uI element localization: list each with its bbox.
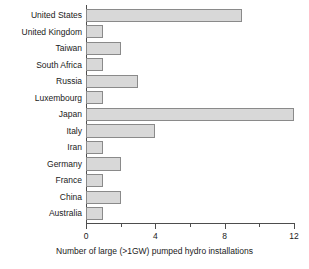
bar: [86, 25, 103, 38]
bar-chart: United StatesUnited KingdomTaiwanSouth A…: [0, 0, 309, 269]
x-tick-major: [86, 224, 87, 229]
bar: [86, 207, 103, 220]
x-axis-title: Number of large (>1GW) pumped hydro inst…: [0, 246, 309, 256]
category-label: Luxembourg: [0, 90, 82, 107]
x-tick-label: 12: [289, 231, 298, 241]
category-label: United Kingdom: [0, 24, 82, 41]
x-tick-minor: [259, 224, 260, 227]
bar-row: [86, 24, 294, 41]
x-tick-minor: [121, 224, 122, 227]
bar-row: [86, 139, 294, 156]
plot-area: [86, 7, 294, 222]
x-tick-major: [225, 224, 226, 229]
bar: [86, 108, 294, 121]
category-label: China: [0, 189, 82, 206]
x-tick-major: [294, 224, 295, 229]
bar: [86, 42, 121, 55]
bar-row: [86, 172, 294, 189]
bar-row: [86, 123, 294, 140]
bar: [86, 174, 103, 187]
bar-row: [86, 106, 294, 123]
category-label: United States: [0, 7, 82, 24]
category-label: South Africa: [0, 57, 82, 74]
bar: [86, 75, 138, 88]
category-label: Australia: [0, 205, 82, 222]
x-tick-label: 4: [153, 231, 158, 241]
x-tick-label: 0: [84, 231, 89, 241]
category-label: Iran: [0, 139, 82, 156]
bar: [86, 191, 121, 204]
bar-row: [86, 205, 294, 222]
x-tick-minor: [190, 224, 191, 227]
bar-row: [86, 7, 294, 24]
bar-row: [86, 73, 294, 90]
bar: [86, 141, 103, 154]
category-label-column: United StatesUnited KingdomTaiwanSouth A…: [0, 7, 82, 222]
category-label: Japan: [0, 106, 82, 123]
bar-row: [86, 90, 294, 107]
bar: [86, 58, 103, 71]
category-label: Germany: [0, 156, 82, 173]
bar: [86, 157, 121, 170]
x-tick-major: [155, 224, 156, 229]
bar: [86, 91, 103, 104]
category-label: France: [0, 172, 82, 189]
bar-row: [86, 156, 294, 173]
category-label: Italy: [0, 123, 82, 140]
bar-row: [86, 189, 294, 206]
bar: [86, 9, 242, 22]
category-label: Taiwan: [0, 40, 82, 57]
bar: [86, 124, 155, 137]
bar-row: [86, 40, 294, 57]
bar-row: [86, 57, 294, 74]
x-tick-label: 8: [222, 231, 227, 241]
category-label: Russia: [0, 73, 82, 90]
